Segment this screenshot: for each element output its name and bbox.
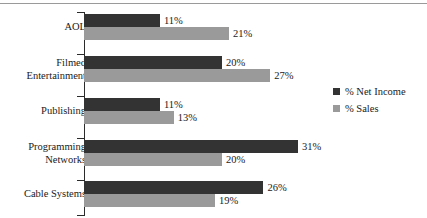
bar-row: 31% xyxy=(84,140,427,153)
axis-tick xyxy=(77,54,84,55)
legend-swatch-icon xyxy=(333,105,340,112)
category-label-3: Programming Networks xyxy=(0,141,86,166)
bar-sales xyxy=(84,69,270,82)
axis-tick xyxy=(77,215,84,216)
bar-row: 11% xyxy=(84,14,427,27)
legend-swatch-icon xyxy=(333,88,340,95)
bar-net-income xyxy=(84,140,298,153)
bar-row: 21% xyxy=(84,27,427,40)
legend-label: % Sales xyxy=(345,103,379,114)
bar-row: 20% xyxy=(84,56,427,69)
bar-value-label: 20% xyxy=(222,57,245,68)
bar-net-income xyxy=(84,14,160,27)
bar-row: 27% xyxy=(84,69,427,82)
bar-net-income xyxy=(84,181,263,194)
chart-legend: % Net Income% Sales xyxy=(333,84,427,118)
bar-value-label: 11% xyxy=(160,15,183,26)
bar-row: 20% xyxy=(84,153,427,166)
bar-value-label: 27% xyxy=(270,70,293,81)
category-label-2: Publishing xyxy=(0,105,86,118)
legend-item-net-income[interactable]: % Net Income xyxy=(333,84,427,99)
legend-item-sales[interactable]: % Sales xyxy=(333,101,427,116)
bar-value-label: 20% xyxy=(222,154,245,165)
bar-chart-figure: AOL11%21%Filmed Entertainment20%27%Publi… xyxy=(0,0,427,218)
bar-sales xyxy=(84,194,215,207)
axis-tick xyxy=(77,12,84,13)
bar-value-label: 26% xyxy=(263,182,286,193)
bar-net-income xyxy=(84,56,222,69)
bar-row: 26% xyxy=(84,181,427,194)
bar-net-income xyxy=(84,98,160,111)
bar-value-label: 11% xyxy=(160,99,183,110)
category-label-0: AOL xyxy=(0,21,86,34)
bar-sales xyxy=(84,153,222,166)
bar-value-label: 31% xyxy=(298,141,321,152)
legend-label: % Net Income xyxy=(345,86,406,97)
category-label-4: Cable Systems xyxy=(0,188,86,201)
bar-row: 19% xyxy=(84,194,427,207)
bar-value-label: 19% xyxy=(215,195,238,206)
bar-sales xyxy=(84,27,229,40)
axis-tick xyxy=(77,138,84,139)
category-label-1: Filmed Entertainment xyxy=(0,57,86,82)
bar-value-label: 13% xyxy=(174,112,197,123)
bar-sales xyxy=(84,111,174,124)
axis-tick xyxy=(77,96,84,97)
axis-tick xyxy=(77,180,84,181)
bar-value-label: 21% xyxy=(229,28,252,39)
